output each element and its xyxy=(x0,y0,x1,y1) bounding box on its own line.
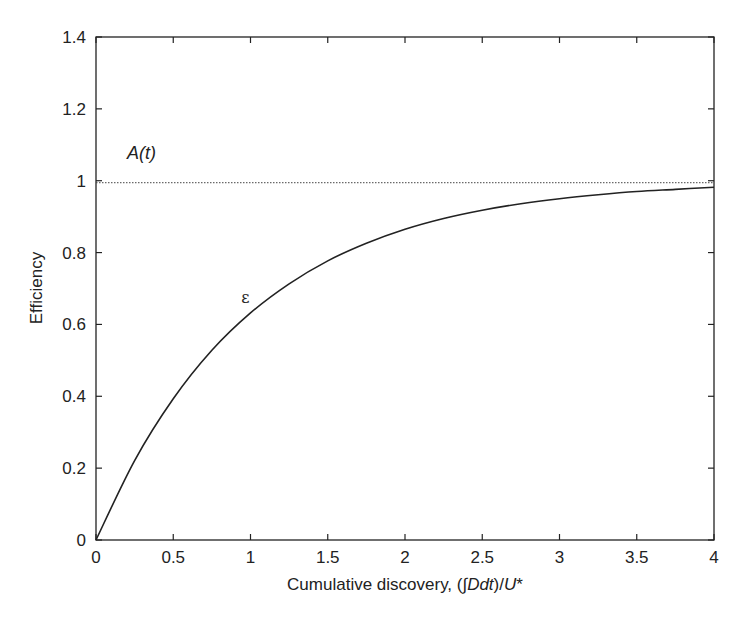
y-tick-label: 0.2 xyxy=(62,459,86,478)
efficiency-chart: 00.511.522.533.54 00.20.40.60.811.21.4 A… xyxy=(0,0,747,624)
x-tick-label: 2 xyxy=(400,548,409,567)
x-tick-label: 0 xyxy=(91,548,100,567)
x-axis-label: Cumulative discovery, (∫Ddt)/U* xyxy=(287,575,523,594)
x-tick-label: 3.5 xyxy=(625,548,649,567)
x-tick-label: 3 xyxy=(555,548,564,567)
plot-frame xyxy=(96,37,714,540)
y-tick-label: 0.8 xyxy=(62,244,86,263)
y-axis-label: Efficiency xyxy=(27,251,46,324)
y-tick-label: 0.4 xyxy=(62,387,86,406)
x-tick-label: 1 xyxy=(246,548,255,567)
y-tick-label: 0 xyxy=(77,531,86,550)
x-axis-ticks: 00.511.522.533.54 xyxy=(91,37,718,567)
x-tick-label: 4 xyxy=(709,548,718,567)
efficiency-curve xyxy=(96,187,714,540)
epsilon-annotation: ε xyxy=(241,288,249,307)
y-tick-label: 1 xyxy=(77,172,86,191)
x-tick-label: 0.5 xyxy=(161,548,185,567)
series-layer xyxy=(96,183,714,540)
annotation-layer: A(t)ε xyxy=(126,143,250,307)
y-tick-label: 1.4 xyxy=(62,28,86,47)
y-axis-ticks: 00.20.40.60.811.21.4 xyxy=(62,28,714,550)
availability-annotation: A(t) xyxy=(126,143,156,163)
x-axis-label-prefix: Cumulative discovery, (∫ xyxy=(287,575,468,594)
y-tick-label: 0.6 xyxy=(62,315,86,334)
plot-border xyxy=(96,37,714,540)
y-tick-label: 1.2 xyxy=(62,100,86,119)
x-tick-label: 2.5 xyxy=(470,548,494,567)
x-axis-label-mid: )/ xyxy=(494,575,505,594)
x-axis-label-u: U xyxy=(504,575,517,594)
x-tick-label: 1.5 xyxy=(316,548,340,567)
x-axis-label-ddt: Ddt xyxy=(467,575,495,594)
x-axis-label-suffix: * xyxy=(516,575,523,594)
